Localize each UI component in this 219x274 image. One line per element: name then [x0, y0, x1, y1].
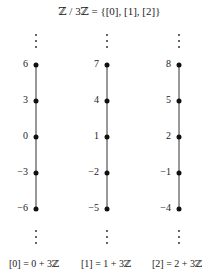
bottom-ellipsis-icon	[35, 230, 37, 244]
value-label: 6	[8, 58, 28, 69]
value-label: 0	[8, 130, 28, 141]
bottom-ellipsis-icon	[106, 230, 108, 244]
class-label-1: [1] = 1 + 3ℤ	[81, 258, 131, 269]
value-label: −4	[151, 202, 171, 213]
value-label: −3	[8, 166, 28, 177]
value-label: −5	[79, 202, 99, 213]
coset-diagram	[0, 0, 219, 274]
value-label: 2	[151, 130, 171, 141]
value-label: −6	[8, 202, 28, 213]
column-0	[34, 34, 39, 244]
class-label-0: [0] = 0 + 3ℤ	[9, 258, 59, 269]
value-label: 4	[79, 94, 99, 105]
value-label: 5	[151, 94, 171, 105]
column-2	[177, 34, 182, 244]
value-label: 1	[79, 130, 99, 141]
top-ellipsis-icon	[106, 34, 108, 48]
class-label-2: [2] = 2 + 3ℤ	[152, 258, 202, 269]
bottom-ellipsis-icon	[178, 230, 180, 244]
column-1	[105, 34, 110, 244]
value-label: 8	[151, 58, 171, 69]
top-ellipsis-icon	[178, 34, 180, 48]
value-label: 3	[8, 94, 28, 105]
top-ellipsis-icon	[35, 34, 37, 48]
value-label: 7	[79, 58, 99, 69]
value-label: −1	[151, 166, 171, 177]
value-label: −2	[79, 166, 99, 177]
